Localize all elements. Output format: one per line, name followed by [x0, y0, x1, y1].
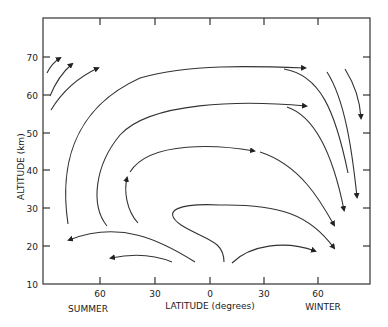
x-tick-30s: 30: [149, 289, 161, 299]
x-tick-60n: 60: [312, 289, 324, 299]
x-axis-label: LATITUDE (degrees): [165, 301, 255, 311]
flow-arrow: [111, 255, 172, 262]
flow-arrow: [69, 232, 195, 262]
plot-frame: [43, 18, 370, 284]
y-tick-60: 60: [27, 91, 39, 101]
flow-arrow: [66, 67, 305, 224]
flow-arrow: [126, 178, 138, 223]
y-tick-50: 50: [27, 129, 39, 139]
x-tick-60s: 60: [94, 289, 106, 299]
flow-line: [284, 69, 348, 173]
y-tick-30: 30: [27, 204, 39, 214]
y-tick-40: 40: [27, 166, 39, 176]
x-tick-30n: 30: [258, 289, 270, 299]
flow-arrow: [130, 147, 254, 172]
flow-arrow: [345, 69, 361, 118]
winter-label: WINTER: [305, 302, 341, 312]
flow-arrow: [50, 64, 72, 96]
y-axis-label: ALTITUDE (km): [16, 133, 26, 200]
flow-arrow: [51, 68, 98, 110]
y-tick-20: 20: [27, 242, 39, 252]
flow-arrow: [47, 58, 60, 73]
flow-arrow: [173, 205, 334, 262]
flow-arrow: [260, 152, 334, 225]
flow-arrow: [232, 245, 315, 263]
flow-arrow: [327, 72, 357, 197]
streamlines: [47, 58, 361, 263]
x-tick-0: 0: [207, 289, 213, 299]
y-tick-10: 10: [27, 280, 39, 290]
x-axis: 60 30 0 30 60 LATITUDE (degrees) SUMMER …: [68, 18, 341, 314]
y-tick-70: 70: [27, 53, 39, 63]
circulation-diagram: 10 20 30 40 50 60 70 ALTITUDE (km) 60 30…: [0, 0, 388, 327]
summer-label: SUMMER: [68, 304, 108, 314]
